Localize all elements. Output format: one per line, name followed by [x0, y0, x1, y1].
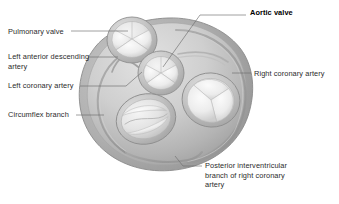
label-right-coronary-artery: Right coronary artery [254, 69, 325, 79]
label-pulmonary-valve: Pulmonary valve [8, 27, 64, 37]
label-circumflex-branch: Circumflex branch [8, 110, 69, 120]
figure-canvas: Pulmonary valve Left anterior descending… [0, 0, 339, 204]
label-posterior-interventricular-branch: Posterior interventricular branch of rig… [205, 161, 299, 190]
label-aortic-valve: Aortic valve [250, 8, 293, 18]
label-left-anterior-descending-artery: Left anterior descending artery [8, 52, 94, 71]
label-left-coronary-artery: Left coronary artery [8, 81, 74, 91]
aortic-valve-structure [138, 51, 184, 95]
